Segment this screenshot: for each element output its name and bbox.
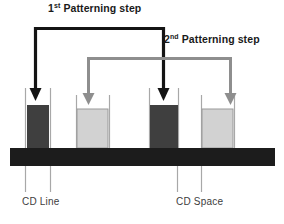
step2-arrowhead-left bbox=[83, 93, 95, 105]
step2-ordinal-suffix: nd bbox=[170, 33, 179, 40]
light-feature-2 bbox=[77, 109, 108, 148]
step2-label: 2nd Patterning step bbox=[164, 33, 260, 45]
guide-lines-lower bbox=[26, 166, 202, 192]
cd-space-label: CD Space bbox=[176, 196, 223, 207]
light-feature-4 bbox=[202, 109, 233, 148]
step1-arrow-bracket bbox=[36, 29, 164, 93]
step1-label: 1st Patterning step bbox=[48, 2, 141, 14]
substrate-layer bbox=[10, 148, 275, 166]
dark-feature-3 bbox=[150, 105, 178, 148]
step1-text: Patterning step bbox=[60, 2, 141, 14]
lithography-patterning-diagram: 1st Patterning step 2nd Patterning step … bbox=[0, 0, 284, 224]
step1-bracket-path bbox=[36, 29, 164, 93]
cd-line-label: CD Line bbox=[22, 196, 60, 207]
step1-arrowhead-right bbox=[158, 88, 170, 101]
step2-text: Patterning step bbox=[179, 33, 260, 45]
step1-arrowhead-left bbox=[30, 88, 42, 101]
dark-feature-1 bbox=[27, 105, 49, 148]
